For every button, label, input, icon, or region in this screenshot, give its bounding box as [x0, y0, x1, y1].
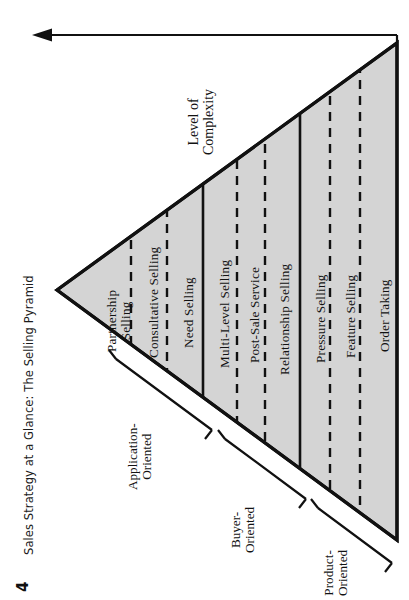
complexity-axis-arrow	[32, 29, 397, 44]
band-line-1: Partnership	[105, 290, 119, 352]
group-line-2: Oriented	[243, 507, 257, 553]
band-line-1: Relationship Selling	[278, 264, 292, 375]
band-line-1: Multi-Level Selling	[218, 260, 232, 368]
arrow-head-icon	[32, 29, 52, 42]
selling-pyramid-figure: Level of Complexity Partnership Selling …	[0, 0, 409, 600]
group-label-application-oriented: Application- Oriented	[126, 423, 155, 490]
group-label-buyer-oriented: Buyer- Oriented	[229, 507, 258, 553]
band-label-multi-level-selling: Multi-Level Selling	[218, 260, 232, 368]
group-line-2: Oriented	[140, 423, 154, 490]
band-line-1: Consultative Selling	[147, 247, 161, 358]
axis-label-line-2: Complexity	[201, 89, 216, 155]
band-line-1: Post-Sale Service	[248, 267, 262, 363]
scanned-book-page: Level of Complexity Partnership Selling …	[0, 0, 409, 600]
complexity-axis-label: Level of Complexity	[186, 89, 217, 155]
band-label-order-taking: Order Taking	[378, 279, 392, 352]
band-line-1: Need Selling	[182, 277, 196, 348]
band-line-1: Pressure Selling	[314, 274, 328, 363]
band-line-2: Selling	[119, 290, 133, 352]
band-label-feature-selling: Feature Selling	[344, 275, 358, 358]
figure-caption: Sales Strategy at a Glance: The Selling …	[22, 275, 36, 555]
band-label-consultative-selling: Consultative Selling	[147, 247, 161, 358]
group-line-1: Buyer-	[229, 507, 243, 553]
axis-label-line-1: Level of	[186, 89, 201, 155]
band-label-partnership-selling: Partnership Selling	[105, 290, 133, 352]
band-label-pressure-selling: Pressure Selling	[314, 274, 328, 363]
group-line-1: Application-	[126, 423, 140, 490]
band-line-1: Feature Selling	[344, 275, 358, 358]
group-line-2: Oriented	[336, 550, 350, 596]
band-label-need-selling: Need Selling	[182, 277, 196, 348]
band-label-relationship-selling: Relationship Selling	[278, 264, 292, 375]
group-line-1: Product-	[322, 550, 336, 596]
band-line-1: Order Taking	[378, 279, 392, 352]
group-label-product-oriented: Product- Oriented	[322, 550, 351, 596]
page-number: 4	[14, 582, 32, 592]
band-label-post-sale-service: Post-Sale Service	[248, 267, 262, 363]
